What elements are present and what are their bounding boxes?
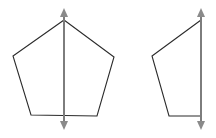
canvas-background [0,0,216,138]
symmetry-figure-canvas [0,0,216,138]
